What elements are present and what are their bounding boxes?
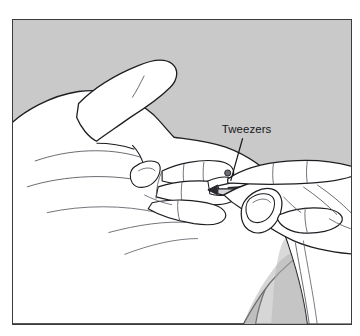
splinter-site [225, 170, 231, 176]
callout-label-tweezers: Tweezers [222, 123, 272, 135]
figure-frame: Tweezers [12, 19, 352, 325]
illustration-stage: Tweezers [0, 0, 360, 336]
illustration-svg: Tweezers [13, 20, 351, 324]
